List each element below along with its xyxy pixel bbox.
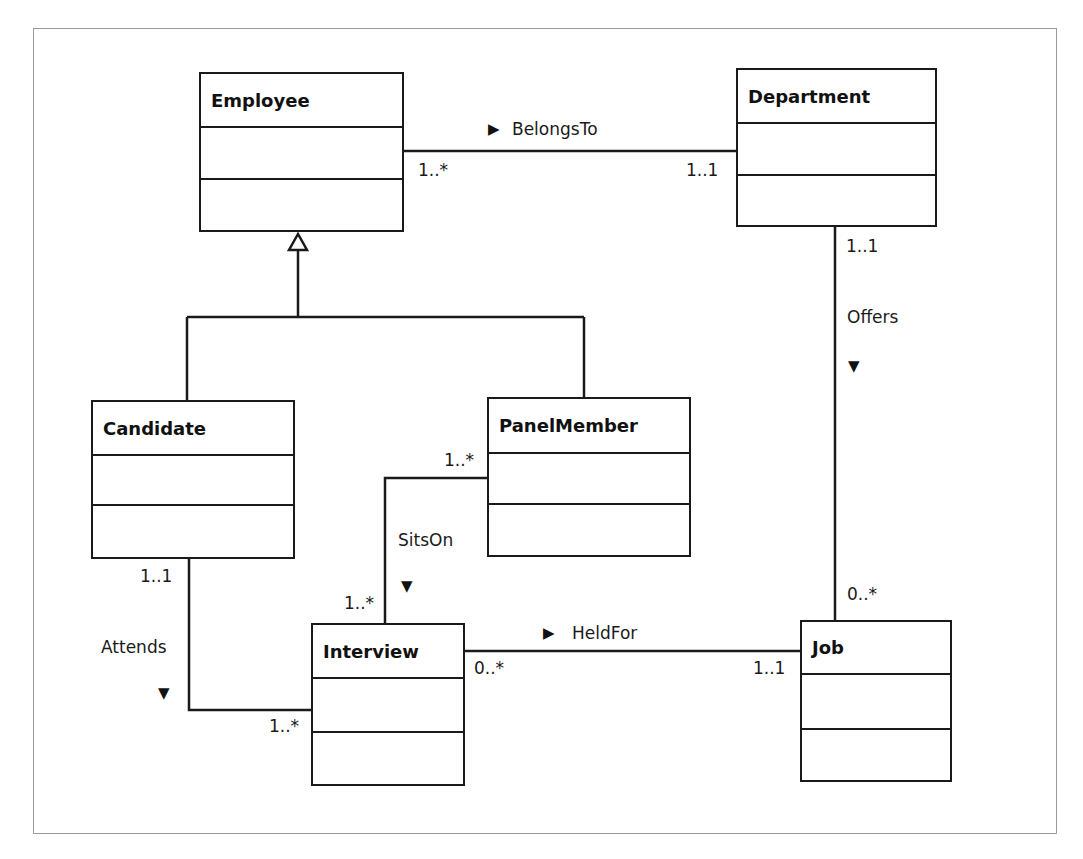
multiplicity-employee: 1..* bbox=[418, 160, 448, 180]
operations-compartment bbox=[738, 176, 935, 225]
multiplicity-department: 1..1 bbox=[686, 160, 718, 180]
association-attends-line bbox=[189, 558, 312, 710]
class-interview[interactable]: Interview bbox=[311, 623, 465, 786]
attributes-compartment bbox=[802, 675, 950, 730]
multiplicity-interview-sitson: 1..* bbox=[344, 593, 374, 613]
operations-compartment bbox=[93, 506, 293, 557]
class-employee[interactable]: Employee bbox=[199, 72, 404, 232]
attributes-compartment bbox=[313, 679, 463, 733]
direction-arrow-down-icon: ▼ bbox=[158, 686, 170, 701]
attributes-compartment bbox=[738, 124, 935, 176]
direction-arrow-right-icon: ▶ bbox=[488, 122, 500, 137]
association-name-offers: Offers bbox=[847, 307, 898, 327]
multiplicity-interview-heldfor: 0..* bbox=[474, 658, 504, 678]
multiplicity-interview-attends: 1..* bbox=[269, 716, 299, 736]
multiplicity-department-offers: 1..1 bbox=[846, 236, 878, 256]
association-name-attends: Attends bbox=[101, 637, 167, 657]
multiplicity-candidate: 1..1 bbox=[140, 566, 172, 586]
class-name: Candidate bbox=[93, 402, 293, 456]
association-name-sitson: SitsOn bbox=[398, 530, 453, 550]
class-panelmember[interactable]: PanelMember bbox=[487, 397, 691, 557]
attributes-compartment bbox=[201, 128, 402, 180]
attributes-compartment bbox=[489, 454, 689, 505]
attributes-compartment bbox=[93, 456, 293, 506]
operations-compartment bbox=[201, 180, 402, 230]
operations-compartment bbox=[489, 505, 689, 555]
multiplicity-panelmember: 1..* bbox=[444, 450, 474, 470]
multiplicity-job-heldfor: 1..1 bbox=[753, 658, 785, 678]
class-name: PanelMember bbox=[489, 399, 689, 454]
class-department[interactable]: Department bbox=[736, 68, 937, 227]
multiplicity-job-offers: 0..* bbox=[847, 584, 877, 604]
direction-arrow-down-icon: ▼ bbox=[848, 359, 860, 374]
class-candidate[interactable]: Candidate bbox=[91, 400, 295, 559]
class-name: Employee bbox=[201, 74, 402, 128]
class-name: Department bbox=[738, 70, 935, 124]
association-name-belongsto: BelongsTo bbox=[512, 119, 598, 139]
direction-arrow-right-icon: ▶ bbox=[543, 626, 555, 641]
class-name: Job bbox=[802, 622, 950, 675]
generalization-triangle-icon bbox=[289, 234, 307, 250]
operations-compartment bbox=[313, 733, 463, 784]
class-name: Interview bbox=[313, 625, 463, 679]
class-job[interactable]: Job bbox=[800, 620, 952, 782]
association-name-heldfor: HeldFor bbox=[572, 623, 637, 643]
association-sitson-line bbox=[385, 478, 488, 623]
operations-compartment bbox=[802, 730, 950, 780]
direction-arrow-down-icon: ▼ bbox=[401, 579, 413, 594]
